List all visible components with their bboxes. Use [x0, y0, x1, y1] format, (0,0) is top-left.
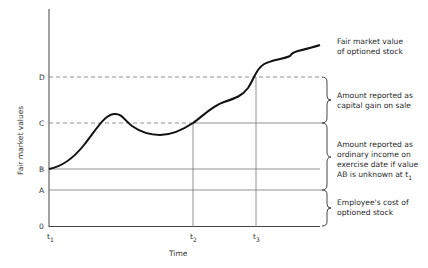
ordinary-income-note: Amount reported as ordinary income on ex…	[337, 140, 421, 181]
employee-cost-note: Employee's cost of optioned stock	[337, 198, 411, 217]
x-axis-label: Time	[168, 249, 188, 258]
brace-employee-cost	[322, 190, 331, 226]
brace-capital-gain	[322, 77, 331, 123]
x-tick-t1: t1	[47, 232, 54, 243]
y-axis-label: Fair market values	[16, 106, 25, 175]
y-tick-0: 0	[39, 222, 44, 231]
stock-option-diagram: D C B A 0 Fair market values t1 t2 t3 Ti…	[0, 0, 428, 268]
x-tick-t2: t2	[190, 232, 197, 243]
curve-label: Fair market value of optioned stock	[337, 37, 406, 56]
y-tick-a: A	[39, 186, 45, 195]
y-tick-d: D	[39, 73, 45, 82]
y-tick-b: B	[39, 165, 44, 174]
brace-ordinary-income	[322, 123, 331, 190]
y-tick-c: C	[39, 119, 44, 128]
capital-gain-note: Amount reported as capital gain on sale	[337, 91, 415, 110]
fair-market-value-curve	[49, 45, 320, 169]
x-tick-t3: t3	[253, 232, 260, 243]
